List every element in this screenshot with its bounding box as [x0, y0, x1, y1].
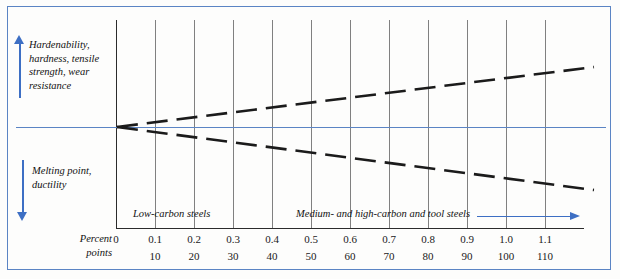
- x-tick-percent: 0.3: [216, 233, 250, 245]
- x-tick-points: 30: [216, 250, 250, 262]
- x-tick-points: 90: [450, 250, 484, 262]
- region-label-medium-high-carbon: Medium- and high-carbon and tool steels: [296, 208, 470, 219]
- x-tick-percent: 1.0: [489, 233, 523, 245]
- arrow-down-icon: [17, 160, 29, 222]
- hardenability-trend-line: [117, 67, 594, 127]
- x-tick-percent: 0.8: [411, 233, 445, 245]
- x-tick-percent: 0.9: [450, 233, 484, 245]
- x-tick-percent: 0.5: [294, 233, 328, 245]
- x-tick-percent: 0.2: [177, 233, 211, 245]
- x-tick-percent: 0.7: [372, 233, 406, 245]
- x-tick-points: 60: [333, 250, 367, 262]
- arrow-up-icon: [14, 36, 26, 98]
- arrow-right-icon: [477, 212, 582, 221]
- x-tick-points: 80: [411, 250, 445, 262]
- x-axis-caption-line2: points: [50, 246, 112, 260]
- region-label-low-carbon: Low-carbon steels: [133, 208, 210, 219]
- x-tick-points: 100: [489, 250, 523, 262]
- x-tick-points: 110: [528, 250, 562, 262]
- x-tick-points: 40: [255, 250, 289, 262]
- x-tick-points: 10: [138, 250, 172, 262]
- x-tick-percent: 0.1: [138, 233, 172, 245]
- upper-axis-label: Hardenability, hardness, tensile strengt…: [29, 38, 111, 92]
- x-tick-percent: 0.6: [333, 233, 367, 245]
- figure-container: Hardenability, hardness, tensile strengt…: [0, 0, 620, 279]
- x-tick-percent: 0.4: [255, 233, 289, 245]
- x-tick-points: 70: [372, 250, 406, 262]
- x-tick-points: 20: [177, 250, 211, 262]
- x-tick-points: 50: [294, 250, 328, 262]
- melting-point-trend-line: [117, 127, 594, 190]
- x-tick-percent: 1.1: [528, 233, 562, 245]
- lower-axis-label: Melting point, ductility: [32, 164, 112, 191]
- x-tick-percent: 0: [99, 233, 133, 245]
